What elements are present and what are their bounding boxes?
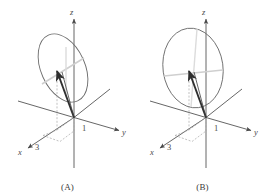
panel-a-canvas: z y x 3 1 xyxy=(0,0,135,175)
panel-a-caption: (A) xyxy=(0,182,135,192)
axis-z-label: z xyxy=(201,7,206,17)
tick-label-x-3: 3 xyxy=(35,142,39,152)
axis-y-negative xyxy=(18,101,74,118)
axis-y-label: y xyxy=(253,127,258,137)
axis-z-label: z xyxy=(69,7,74,17)
tick-label-y-1: 1 xyxy=(82,123,86,133)
panel-b: z y x 3 1 (B) xyxy=(135,0,270,196)
dash-x-leg xyxy=(175,130,189,136)
circle-diameter-guide xyxy=(42,58,84,84)
axis-x-label: x xyxy=(17,147,22,157)
circle-in-plane xyxy=(158,24,229,112)
axis-y-label: y xyxy=(121,127,126,137)
tick-label-x-3: 3 xyxy=(167,142,171,152)
vector-shadow-edge xyxy=(62,72,74,118)
dash-x-leg xyxy=(43,130,57,136)
axis-x-label: x xyxy=(149,147,154,157)
axis-y-positive xyxy=(206,118,251,131)
dash-y-leg xyxy=(60,131,74,142)
panel-b-canvas: z y x 3 1 xyxy=(135,0,270,175)
dash-y-leg xyxy=(192,131,206,142)
axis-x-negative xyxy=(74,89,110,118)
axis-y-negative xyxy=(150,101,206,118)
tick-label-y-1: 1 xyxy=(214,123,218,133)
circle-in-plane xyxy=(28,26,97,110)
vector-shadow-edge xyxy=(194,72,206,118)
figure-two-panel-3d-diagram: z y x 3 1 (A) xyxy=(0,0,270,196)
axis-x-negative xyxy=(206,89,242,118)
panel-a: z y x 3 1 (A) xyxy=(0,0,135,196)
panel-b-caption: (B) xyxy=(135,182,270,192)
circle-axis-guide xyxy=(191,29,197,107)
axis-y-positive xyxy=(74,118,119,131)
